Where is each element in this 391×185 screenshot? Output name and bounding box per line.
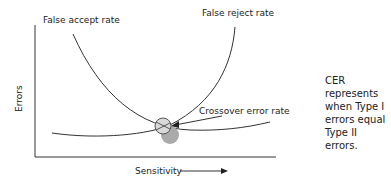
false-accept-label: False accept rate — [43, 15, 120, 25]
false-reject-label: False reject rate — [202, 8, 274, 18]
crossover-arrow — [175, 116, 222, 125]
note-line: CER represents — [325, 74, 391, 100]
note-line: when Type I — [325, 100, 391, 113]
cer-note: CER represents when Type I errors equal … — [325, 74, 391, 152]
y-axis-label: Errors — [14, 85, 24, 112]
crossover-point-marker — [155, 118, 171, 134]
arrow-right-icon — [221, 168, 228, 174]
note-line: errors equal — [325, 113, 391, 126]
x-axis-label: Sensitivity — [135, 166, 182, 176]
false-reject-curve — [52, 27, 235, 136]
crossover-label: Crossover error rate — [199, 106, 290, 116]
note-line: Type II errors. — [325, 126, 391, 152]
